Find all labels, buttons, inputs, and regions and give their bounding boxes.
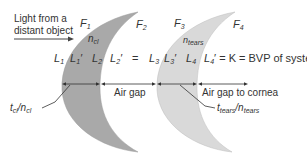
arrowhead-icon (244, 82, 248, 85)
arrowhead-icon (198, 82, 202, 85)
vergence-sub: 4 (210, 58, 214, 65)
air-gap-cornea-label: Air gap to cornea (202, 88, 278, 98)
thickness-sep: /n (235, 102, 243, 113)
vergence-l1-prime: L1′ (70, 53, 82, 64)
bvp-result: = K = BVP of system (219, 52, 307, 64)
lens2-index-label: ntears (183, 36, 204, 45)
vergence-l4: L4 (186, 53, 196, 64)
vergence-l3: L3 (149, 53, 159, 64)
equals-sign: = (132, 53, 138, 64)
lens1-index-label: ncl (88, 34, 99, 44)
vergence-l2-prime: L2′ (110, 53, 122, 64)
tear-lens-shape (157, 12, 235, 152)
vergence-l3-prime: L3′ (164, 53, 176, 64)
incoming-light-line2: distant object (14, 26, 73, 36)
index-n: n (88, 33, 94, 44)
surface-f2-label: F2 (136, 19, 147, 30)
vergence-sub: 2 (98, 58, 102, 65)
surface-f4-label: F4 (233, 19, 244, 30)
vergence-sub: 2 (116, 58, 120, 65)
index-sub: cl (94, 38, 99, 45)
thickness-sub2: tears (244, 107, 260, 114)
arrowhead-icon (68, 37, 74, 42)
index-sub: tears (188, 39, 204, 46)
surface-f1-label: F1 (80, 18, 91, 29)
surface-f3-label: F3 (174, 18, 185, 29)
incoming-light-line1: Light from a (14, 14, 73, 24)
vergence-l2: L2 (92, 53, 102, 64)
air-gap-label: Air gap (114, 88, 146, 98)
arrowhead-icon (101, 82, 105, 85)
contact-lens-shape (62, 12, 138, 152)
thickness-sub: cl (13, 107, 18, 114)
vergence-sub: 3 (155, 58, 159, 65)
vergence-sub: 3 (170, 58, 174, 65)
arrowhead-icon (152, 82, 156, 85)
vergence-sub: 1 (76, 58, 80, 65)
lens2-thickness-label: ttears/ntears (217, 103, 259, 113)
vergence-sub: 4 (192, 58, 196, 65)
lens1-thickness-label: tcl/ncl (10, 103, 31, 113)
thickness-sep: /n (18, 102, 26, 113)
vergence-sub: 1 (60, 58, 64, 65)
incoming-light-label: Light from a distant object (14, 14, 73, 36)
thickness-sub: tears (220, 107, 236, 114)
vergence-l1: L1 (54, 53, 64, 64)
thickness-sub2: cl (26, 107, 31, 114)
vergence-l4-prime-result: L4′ = K = BVP of system (204, 53, 307, 64)
